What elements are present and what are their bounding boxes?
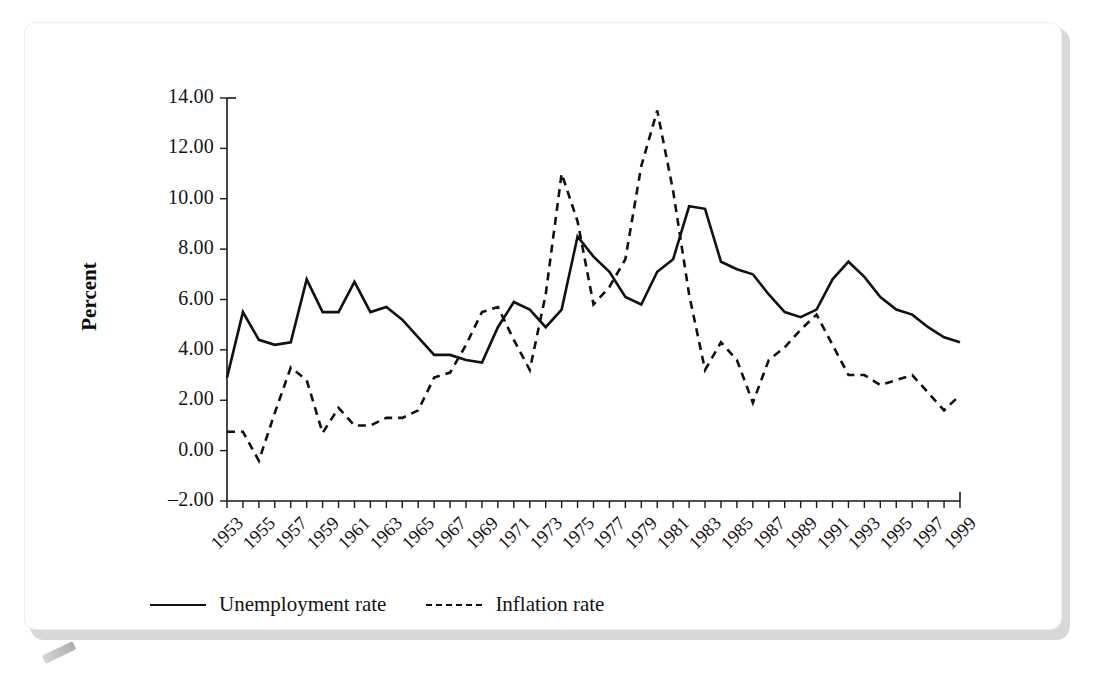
y-axis-tick-label: 14.00 (128, 85, 214, 108)
legend-item-unemployment-rate: Unemployment rate (150, 592, 386, 617)
plot-area: –2.000.002.004.006.008.0010.0012.0014.00… (0, 0, 1101, 690)
chart-legend: Unemployment rate Inflation rate (150, 592, 604, 617)
y-axis-tick-label: 0.00 (128, 438, 214, 461)
y-axis-tick-label: 6.00 (128, 287, 214, 310)
legend-label-inflation-rate: Inflation rate (495, 592, 604, 617)
legend-item-inflation-rate: Inflation rate (426, 592, 604, 617)
y-axis-tick-label: 12.00 (128, 135, 214, 158)
y-axis-tick-label: –2.00 (128, 488, 214, 511)
y-axis-tick-label: 2.00 (128, 387, 214, 410)
y-axis-tick-label: 10.00 (128, 186, 214, 209)
series-line-unemployment-rate (227, 206, 960, 377)
legend-swatch-dashed-line-icon (426, 604, 482, 606)
y-axis-tick-label: 4.00 (128, 337, 214, 360)
series-line-inflation-rate (227, 111, 960, 461)
legend-swatch-solid-line-icon (150, 604, 206, 606)
axes-group (227, 98, 960, 501)
y-axis-tick-label: 8.00 (128, 236, 214, 259)
legend-label-unemployment-rate: Unemployment rate (219, 592, 386, 617)
tick-marks-group (220, 98, 960, 508)
y-axis-title: Percent (77, 262, 102, 330)
figure-root: –2.000.002.004.006.008.0010.0012.0014.00… (0, 0, 1101, 690)
